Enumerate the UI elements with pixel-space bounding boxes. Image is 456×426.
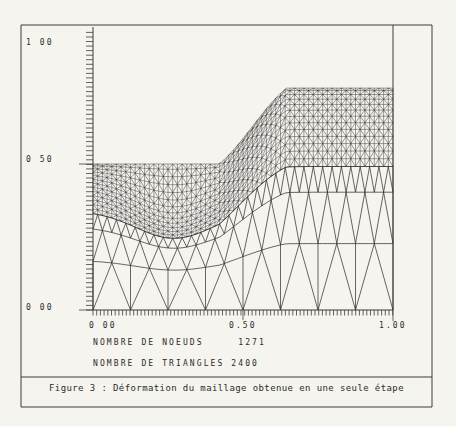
mesh-lines [21, 25, 432, 407]
mesh-lines [79, 32, 393, 321]
x-axis-label-05: 0.50 [229, 321, 257, 331]
x-axis-label-1: 1.00 [379, 321, 407, 331]
y-axis-label-1: 1 00 [26, 38, 54, 48]
scanned-figure-page: 1 00 0 50 0 00 0 00 0.50 1.00 NOMBRE DE … [0, 0, 456, 426]
y-axis-label-05: 0 50 [26, 155, 54, 165]
figure-caption: Figure 3 : Déformation du maillage obten… [21, 383, 432, 393]
node-count-text: NOMBRE DE NOEUDS 1271 [93, 338, 266, 348]
x-axis-label-0: 0 00 [89, 321, 117, 331]
y-axis-label-0: 0 00 [26, 303, 54, 313]
triangle-count-text: NOMBRE DE TRIANGLES 2400 [93, 359, 259, 369]
